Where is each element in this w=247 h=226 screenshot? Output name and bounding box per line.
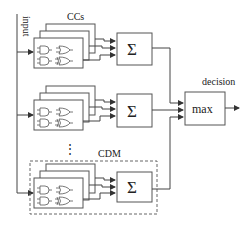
cdm-architecture-diagram: input CCs Σ Σ ⋮ CDM [0,0,247,226]
ccs-label: CCs [67,11,84,22]
sum-symbol: Σ [127,102,137,121]
cc-stack-branch-n [34,164,115,208]
sum-symbol: Σ [127,40,137,59]
sum-block-branch-1: Σ [117,33,152,65]
cc-stack-branch-2 [34,86,115,130]
max-label: max [192,102,213,116]
cc-stack-branch-1 [34,24,115,68]
input-bus [17,14,33,193]
max-block: max [185,92,225,125]
input-label: input [21,16,32,37]
sum-block-branch-2: Σ [117,94,152,127]
sum-symbol: Σ [127,178,137,197]
ellipsis: ⋮ [64,142,76,156]
sum-block-branch-n: Σ [117,172,152,202]
decision-label: decision [202,76,235,87]
cdm-label: CDM [98,148,121,159]
